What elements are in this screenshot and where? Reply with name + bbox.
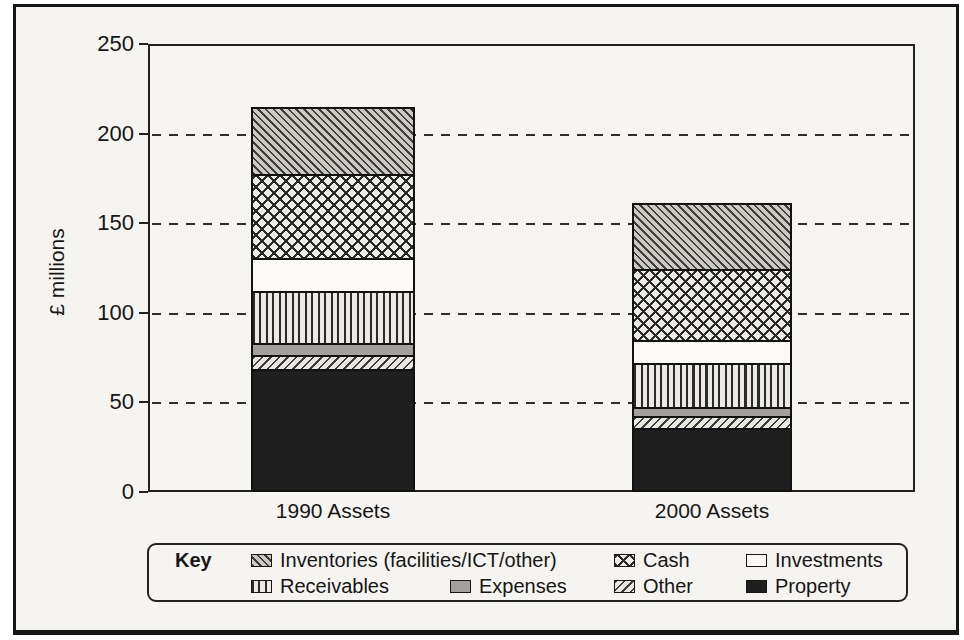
legend-swatch-vertical-lines-icon xyxy=(251,580,272,593)
y-tick-mark-0 xyxy=(139,491,148,493)
bar-segment-investments xyxy=(634,340,790,363)
legend-item-label: Other xyxy=(643,575,693,597)
legend-item-label: Expenses xyxy=(479,575,567,597)
legend-item-inventories: Inventories (facilities/ICT/other) xyxy=(251,549,557,571)
y-tick-label-50: 50 xyxy=(44,391,134,413)
legend-item-label: Property xyxy=(775,575,851,597)
y-tick-label-250: 250 xyxy=(44,33,134,55)
x-axis-label-2000-assets: 2000 Assets xyxy=(602,499,822,523)
y-tick-mark-150 xyxy=(139,222,148,224)
legend-swatch-solid-gray-icon xyxy=(450,580,471,593)
bar-segment-receivables xyxy=(253,291,413,342)
bar-segment-cash xyxy=(253,174,413,257)
bar-segment-inventories xyxy=(634,205,790,269)
bar-segment-expenses xyxy=(253,343,413,355)
y-tick-label-100: 100 xyxy=(44,302,134,324)
bar-segment-other xyxy=(253,355,413,369)
legend-title: Key xyxy=(175,549,212,572)
legend-swatch-diagonal-slash-hatch-icon xyxy=(614,580,635,593)
bar-segment-property xyxy=(253,369,413,490)
bar-segment-cash xyxy=(634,269,790,340)
legend-swatch-solid-black-icon xyxy=(746,580,767,593)
bar-segment-property xyxy=(634,428,790,490)
scanned-chart-page: £ millions 050100150200250 Key Inventori… xyxy=(0,0,964,640)
legend-item-property: Property xyxy=(746,575,851,597)
y-tick-mark-50 xyxy=(139,401,148,403)
bar-segment-investments xyxy=(253,258,413,292)
y-tick-mark-100 xyxy=(139,312,148,314)
y-tick-label-0: 0 xyxy=(44,481,134,503)
legend-item-other: Other xyxy=(614,575,693,597)
legend-swatch-diamond-crosshatch-icon xyxy=(614,554,635,567)
legend-item-label: Cash xyxy=(643,549,690,571)
y-tick-label-150: 150 xyxy=(44,212,134,234)
x-axis-label-1990-assets: 1990 Assets xyxy=(223,499,443,523)
legend-item-cash: Cash xyxy=(614,549,690,571)
bar-2000-assets xyxy=(632,203,792,492)
legend-item-label: Investments xyxy=(775,549,883,571)
bar-1990-assets xyxy=(251,107,415,492)
bar-segment-inventories xyxy=(253,109,413,175)
legend-item-expenses: Expenses xyxy=(450,575,567,597)
legend-item-label: Receivables xyxy=(280,575,389,597)
y-tick-mark-250 xyxy=(139,43,148,45)
legend-swatch-diagonal-backslash-hatch-icon xyxy=(251,554,272,567)
y-tick-label-200: 200 xyxy=(44,123,134,145)
legend-item-receivables: Receivables xyxy=(251,575,389,597)
legend-item-investments: Investments xyxy=(746,549,883,571)
legend-swatch-solid-white-icon xyxy=(746,554,767,567)
bar-segment-receivables xyxy=(634,363,790,407)
bar-segment-expenses xyxy=(634,407,790,416)
y-tick-mark-200 xyxy=(139,133,148,135)
legend-item-label: Inventories (facilities/ICT/other) xyxy=(280,549,557,571)
bar-segment-other xyxy=(634,416,790,428)
